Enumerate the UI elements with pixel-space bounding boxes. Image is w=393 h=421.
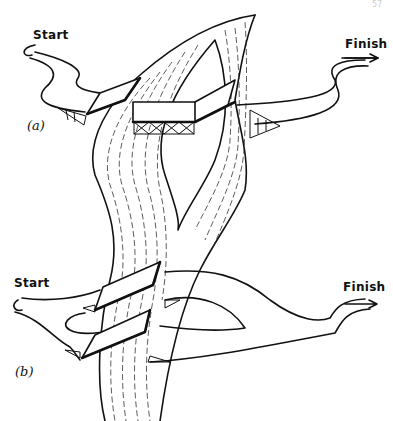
river-bridge-illustration <box>0 0 393 421</box>
panel-b-route <box>14 262 377 362</box>
panel-b-start-label: Start <box>14 276 50 290</box>
bridge-a-left <box>87 78 140 114</box>
page-number: 57 <box>372 0 382 9</box>
panel-a-finish-label: Finish <box>345 37 387 51</box>
panel-b-label: (b) <box>15 364 33 379</box>
panel-a-route <box>24 45 378 138</box>
panel-b-finish-label: Finish <box>343 280 385 294</box>
start-arrow-icon <box>14 300 22 310</box>
panel-a-label: (a) <box>27 118 45 133</box>
diagram-canvas: 57 Start Finish (a) Start Finish (b) <box>0 0 393 421</box>
panel-a-start-label: Start <box>33 28 69 42</box>
